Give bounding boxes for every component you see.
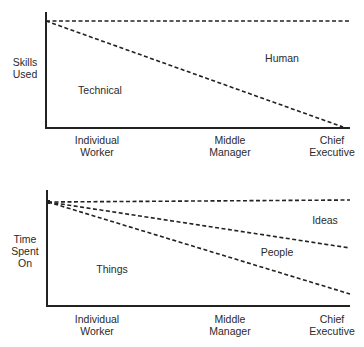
x-label-chief-executive: Chief Executive (300, 313, 364, 337)
time-spent-diagram: Time Spent On Things People Ideas Indivi… (0, 175, 364, 347)
x-label-middle-manager: Middle Manager (195, 134, 265, 158)
y-axis-label: Skills Used (10, 56, 40, 80)
upper-boundary-line (48, 200, 350, 202)
region-label-people: People (247, 246, 307, 258)
region-label-human: Human (252, 52, 312, 64)
y-axis-label: Time Spent On (8, 233, 42, 269)
x-label-individual-worker: Individual Worker (62, 134, 132, 158)
technical-human-divider-line (46, 21, 343, 127)
region-label-ideas: Ideas (300, 214, 350, 226)
skills-used-diagram: Skills Used Technical Human Individual W… (0, 0, 364, 175)
region-label-things: Things (82, 263, 142, 275)
x-label-individual-worker: Individual Worker (62, 313, 132, 337)
x-label-chief-executive: Chief Executive (300, 134, 364, 158)
region-label-technical: Technical (70, 84, 130, 96)
x-label-middle-manager: Middle Manager (195, 313, 265, 337)
